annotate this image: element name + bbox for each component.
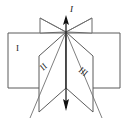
- region-one-label: I: [16, 43, 19, 53]
- physics-diagram-figure: I I II III: [0, 0, 127, 140]
- diagram-canvas: I I II III: [0, 0, 127, 140]
- current-label: I: [69, 4, 74, 14]
